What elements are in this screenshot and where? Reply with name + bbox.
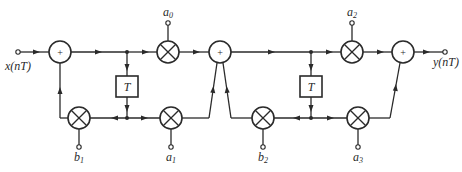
coef-label-a3: a3 (353, 150, 363, 165)
junction-node (309, 50, 313, 54)
plus-icon: + (217, 47, 223, 58)
multiplier-b2-icon (252, 107, 274, 129)
coef-terminal-a3 (356, 145, 360, 149)
multiplier-a1-icon (160, 107, 182, 129)
multiplier-b1-icon (68, 107, 90, 129)
coef-label-a2: a2 (347, 5, 357, 20)
delay-2: T (300, 76, 322, 97)
coef-label-a1: a1 (166, 150, 176, 165)
input-terminal (16, 50, 20, 54)
multiplier-a2-icon (341, 41, 363, 63)
junction-node (125, 50, 129, 54)
coef-label-b1: b1 (74, 150, 84, 165)
coef-terminal-b2 (261, 145, 265, 149)
delay-1: T (116, 76, 138, 97)
adder-1: + (49, 41, 71, 63)
input-label: x(nT) (4, 59, 31, 73)
coef-terminal-a2 (350, 21, 354, 25)
coef-label-b2: b2 (258, 150, 268, 165)
plus-icon: + (400, 47, 406, 58)
output-label: y(nT) (432, 55, 459, 69)
junction-node (125, 116, 129, 120)
coef-label-a0: a0 (163, 5, 173, 20)
junction-node (309, 116, 313, 120)
adder-2: + (209, 41, 231, 63)
coef-terminal-a0 (166, 21, 170, 25)
block-diagram: x(nT) y(nT) + + + T T a0 a2 b1 a1 b2 a3 (0, 0, 462, 172)
adder-3: + (392, 41, 414, 63)
output-terminal (443, 50, 447, 54)
plus-icon: + (57, 47, 63, 58)
multiplier-a0-icon (157, 41, 179, 63)
multiplier-a3-icon (347, 107, 369, 129)
coef-terminal-a1 (169, 145, 173, 149)
coef-terminal-b1 (77, 145, 81, 149)
